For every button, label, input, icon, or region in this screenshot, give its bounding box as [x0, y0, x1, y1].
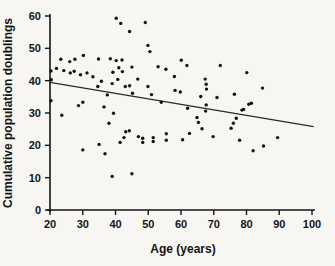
- x-tick-label: 100: [303, 218, 321, 230]
- data-point: [199, 95, 202, 98]
- data-point: [60, 114, 63, 117]
- data-point: [261, 86, 264, 89]
- data-point: [107, 122, 110, 125]
- data-point: [69, 71, 72, 74]
- data-point: [116, 78, 119, 81]
- y-tick-label: 10: [29, 172, 41, 184]
- x-tick-label: 50: [142, 218, 154, 230]
- data-point: [111, 71, 114, 74]
- data-point: [205, 103, 208, 106]
- data-point: [181, 138, 184, 141]
- data-point: [109, 57, 112, 60]
- data-point: [81, 101, 84, 104]
- data-point: [81, 148, 84, 151]
- data-point: [119, 22, 122, 25]
- data-point: [242, 108, 245, 111]
- y-tick-label: 20: [29, 139, 41, 151]
- data-point: [200, 127, 203, 130]
- data-point: [156, 65, 159, 68]
- data-point: [137, 135, 140, 138]
- data-point: [165, 132, 168, 135]
- data-point: [82, 54, 85, 57]
- data-point: [49, 99, 52, 102]
- data-point: [262, 144, 265, 147]
- data-point: [122, 136, 125, 139]
- y-tick-label: 50: [29, 42, 41, 54]
- data-point: [115, 17, 118, 20]
- data-point: [62, 69, 65, 72]
- data-point: [152, 136, 155, 139]
- data-point: [146, 85, 149, 88]
- data-point: [185, 64, 188, 67]
- data-point: [117, 66, 120, 69]
- data-point: [250, 102, 253, 105]
- data-point: [160, 101, 163, 104]
- data-point: [49, 69, 52, 72]
- data-point: [115, 59, 118, 62]
- y-tick-label: 0: [35, 204, 41, 216]
- x-tick-label: 80: [240, 218, 252, 230]
- data-point: [59, 58, 62, 61]
- data-point: [128, 129, 131, 132]
- data-point: [102, 105, 105, 108]
- data-point: [106, 93, 109, 96]
- data-point: [50, 78, 53, 81]
- data-point: [128, 30, 131, 33]
- data-point: [146, 44, 149, 47]
- data-point: [77, 104, 80, 107]
- x-tick-label: 90: [273, 218, 285, 230]
- data-point: [112, 112, 115, 115]
- x-axis-title: Age (years): [150, 242, 215, 256]
- x-tick-label: 20: [44, 218, 56, 230]
- data-point: [188, 132, 191, 135]
- data-point: [111, 82, 114, 85]
- data-point: [180, 59, 183, 62]
- data-point: [136, 77, 139, 80]
- x-axis-tick-labels: 2030405060708090100: [44, 218, 321, 230]
- data-point: [152, 140, 155, 143]
- data-point: [131, 92, 134, 95]
- data-point: [128, 84, 131, 87]
- data-point: [124, 130, 127, 133]
- data-point: [235, 117, 238, 120]
- data-point: [229, 127, 232, 130]
- data-point: [121, 70, 124, 73]
- data-point: [130, 65, 133, 68]
- data-point: [55, 67, 58, 70]
- x-tick-label: 30: [77, 218, 89, 230]
- data-point: [204, 109, 207, 112]
- data-point: [197, 121, 200, 124]
- y-tick-label: 60: [29, 10, 41, 22]
- data-point: [85, 71, 88, 74]
- data-point: [124, 85, 127, 88]
- data-point: [173, 75, 176, 78]
- data-point: [219, 64, 222, 67]
- data-point: [148, 50, 151, 53]
- data-point: [251, 149, 254, 152]
- data-point: [232, 122, 235, 125]
- y-tick-label: 40: [29, 75, 41, 87]
- data-point: [141, 137, 144, 140]
- data-point: [215, 96, 218, 99]
- data-point: [179, 90, 182, 93]
- data-point: [164, 68, 167, 71]
- data-point: [97, 57, 100, 60]
- data-point: [204, 77, 207, 80]
- data-point: [186, 107, 189, 110]
- y-tick-label: 30: [29, 107, 41, 119]
- data-point: [245, 71, 248, 74]
- data-point: [120, 58, 123, 61]
- data-point: [73, 58, 76, 61]
- data-point: [144, 21, 147, 24]
- data-point: [97, 143, 100, 146]
- scatter-chart: 2030405060708090100 0102030405060 Age (y…: [0, 0, 335, 266]
- data-point: [73, 70, 76, 73]
- data-point: [211, 135, 214, 138]
- data-point: [150, 93, 153, 96]
- x-tick-label: 60: [175, 218, 187, 230]
- data-point: [91, 75, 94, 78]
- data-point: [205, 87, 208, 90]
- data-point: [79, 73, 82, 76]
- data-point: [205, 83, 208, 86]
- scatter-figure: 2030405060708090100 0102030405060 Age (y…: [0, 0, 335, 266]
